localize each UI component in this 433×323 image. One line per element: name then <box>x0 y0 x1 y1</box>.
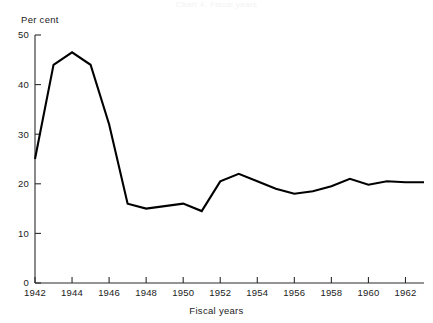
y-tick-label-20: 20 <box>18 178 29 189</box>
line-chart-plot: 01020304050 1942194419461948195019521954… <box>0 0 433 323</box>
x-tick-label-1954: 1954 <box>246 287 268 298</box>
x-axis-ticks <box>35 277 405 283</box>
y-tick-label-30: 30 <box>18 129 29 140</box>
x-tick-label-1946: 1946 <box>98 287 120 298</box>
y-axis-group: 01020304050 <box>18 29 41 288</box>
x-tick-label-1960: 1960 <box>357 287 379 298</box>
y-axis-tick-labels: 01020304050 <box>18 29 29 288</box>
x-tick-label-1952: 1952 <box>209 287 231 298</box>
x-axis-title: Fiscal years <box>0 305 433 316</box>
x-tick-label-1942: 1942 <box>24 287 46 298</box>
x-tick-label-1944: 1944 <box>61 287 83 298</box>
series-line-per-cent <box>35 52 424 211</box>
x-axis-tick-labels: 1942194419461948195019521954195619581960… <box>24 287 416 298</box>
chart-figure: Chart 4. Fiscal years Per cent 010203040… <box>0 0 433 323</box>
y-tick-label-50: 50 <box>18 29 29 40</box>
x-tick-label-1962: 1962 <box>395 287 417 298</box>
x-tick-label-1956: 1956 <box>283 287 305 298</box>
x-tick-label-1948: 1948 <box>135 287 157 298</box>
x-tick-label-1958: 1958 <box>320 287 342 298</box>
x-tick-label-1950: 1950 <box>172 287 194 298</box>
y-tick-label-40: 40 <box>18 79 29 90</box>
y-tick-label-10: 10 <box>18 228 29 239</box>
x-axis-group: 1942194419461948195019521954195619581960… <box>24 277 424 298</box>
